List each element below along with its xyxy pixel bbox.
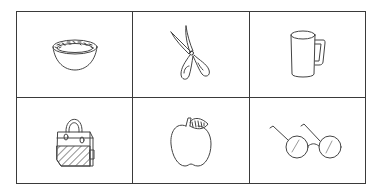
glasses-icon [268,120,348,162]
mug-icon [286,28,330,82]
picture-grid: bowl scissors mug [16,11,366,184]
grid-cell-mug[interactable]: mug [250,12,365,98]
scissors-icon [167,24,215,86]
grid-cell-glasses[interactable]: glasses [250,98,365,183]
handbag-icon [53,110,97,172]
apple-icon [168,112,214,170]
grid-cell-scissors[interactable]: scissors [133,12,250,98]
grid-cell-bowl[interactable]: bowl [17,12,133,98]
grid-cell-handbag[interactable]: handbag [17,98,133,183]
bowl-icon [49,37,101,73]
grid-cell-apple[interactable]: apple [133,98,250,183]
